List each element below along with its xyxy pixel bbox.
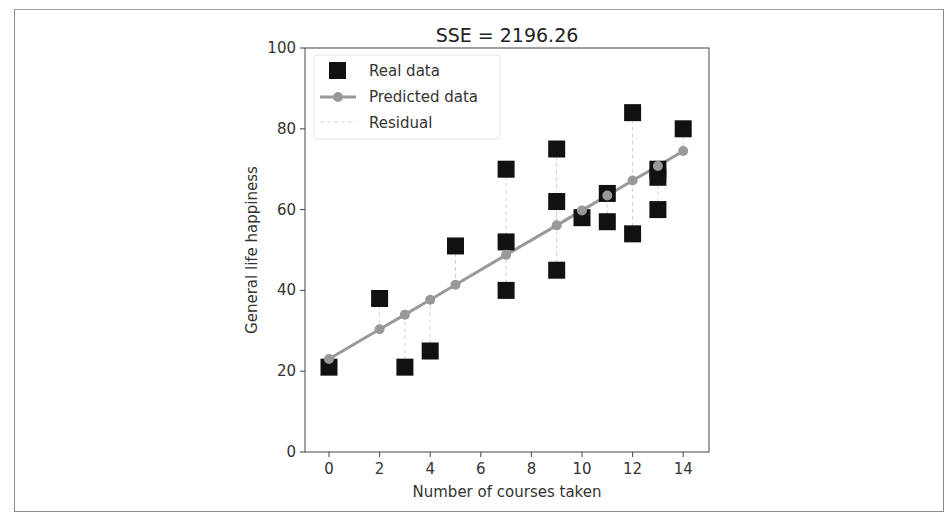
x-axis-label: Number of courses taken — [413, 483, 602, 501]
x-tick-label: 6 — [476, 460, 486, 478]
legend-label-real: Real data — [369, 62, 440, 80]
legend-label-predicted: Predicted data — [369, 88, 478, 106]
predicted-data-point — [577, 205, 587, 215]
y-axis-ticks: 020406080100 — [267, 39, 305, 461]
real-data-point — [599, 213, 616, 230]
real-data-point — [624, 104, 641, 121]
x-tick-label: 2 — [375, 460, 385, 478]
y-tick-label: 80 — [277, 120, 296, 138]
chart-title: SSE = 2196.26 — [436, 24, 579, 46]
real-data-point — [447, 237, 464, 254]
x-tick-label: 12 — [623, 460, 642, 478]
x-tick-label: 14 — [674, 460, 693, 478]
x-tick-label: 10 — [572, 460, 591, 478]
predicted-data-point — [400, 310, 410, 320]
real-data-point — [548, 141, 565, 158]
x-tick-label: 8 — [527, 460, 537, 478]
predicted-data-point — [324, 354, 334, 364]
real-data-point — [649, 201, 666, 218]
real-data-point — [422, 343, 439, 360]
x-axis-ticks: 02468101214 — [324, 452, 693, 478]
real-data-point — [624, 225, 641, 242]
y-tick-label: 0 — [286, 443, 296, 461]
real-data-point — [371, 290, 388, 307]
y-tick-label: 40 — [277, 281, 296, 299]
predicted-data-point — [628, 176, 638, 186]
real-data-point — [498, 161, 515, 178]
y-tick-label: 60 — [277, 201, 296, 219]
real-data-point — [498, 233, 515, 250]
predicted-data-point — [678, 146, 688, 156]
real-data-point — [498, 282, 515, 299]
legend-circle-icon — [333, 92, 343, 102]
predicted-data-point — [552, 220, 562, 230]
predicted-data-point — [375, 324, 385, 334]
predicted-data-point — [451, 280, 461, 290]
predicted-data-point — [501, 250, 511, 260]
predicted-data-point — [602, 190, 612, 200]
legend-label-residual: Residual — [369, 114, 432, 132]
real-data-point — [675, 120, 692, 137]
chart: SSE = 2196.26 02468101214 020406080100 N… — [0, 0, 949, 524]
y-tick-label: 100 — [267, 39, 296, 57]
predicted-data-point — [425, 295, 435, 305]
legend: Real data Predicted data Residual — [314, 55, 500, 139]
real-data-point — [548, 193, 565, 210]
real-data-point — [396, 359, 413, 376]
real-data-point — [649, 169, 666, 186]
y-axis-label: General life happiness — [243, 166, 261, 334]
predicted-data-point — [653, 161, 663, 171]
x-tick-label: 4 — [425, 460, 435, 478]
real-data-points — [321, 104, 692, 376]
y-tick-label: 20 — [277, 362, 296, 380]
legend-square-icon — [329, 62, 346, 79]
real-data-point — [548, 262, 565, 279]
x-tick-label: 0 — [324, 460, 334, 478]
